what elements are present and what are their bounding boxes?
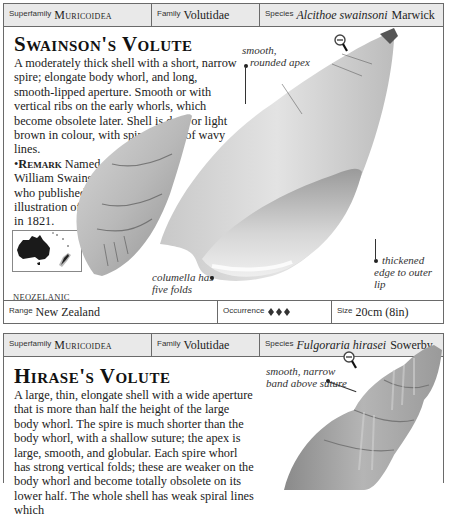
annotation-apex: smooth, rounded apex [242,44,310,68]
annotation-columella: columella has five folds [152,271,213,295]
leader-dot [210,276,214,280]
annotation-lip: thickened edge to outer lip [374,254,443,290]
occurrence-cell: Occurrence [218,301,332,323]
leader-line [375,239,376,259]
leader-line [245,66,246,104]
annotation-line: thickened [374,254,443,266]
leader-dot [374,259,378,263]
annotation-line: columella has [152,271,213,283]
size-value: 20cm (8in) [356,305,409,320]
range-cell: Range New Zealand [4,301,218,323]
annotation-line: edge to outer lip [374,266,443,290]
superfamily-value: Muricoidea [54,338,112,353]
range-label: Range [9,306,33,315]
annotation-line: five folds [152,283,213,295]
annotation-suture: smooth, narrow band above suture [266,365,347,389]
range-value: New Zealand [36,305,100,320]
shell-entry-hirases-volute: Superfamily Muricoidea Family Volutidae … [3,333,444,483]
entry-description: A large, thin, elongate shell with a wid… [14,388,254,518]
superfamily-cell: Superfamily Muricoidea [4,334,152,356]
occurrence-shell-icons [267,307,291,317]
entry-footer: Range New Zealand Occurrence Size 20cm (… [4,300,443,323]
annotation-line: rounded apex [242,56,310,68]
entry-title: Hirase's Volute [14,364,170,389]
magnifier-zoom-out-icon[interactable] [334,34,350,54]
annotation-line: smooth, [242,44,310,56]
size-cell: Size 20cm (8in) [332,301,443,323]
shell-entry-swainsons-volute: Superfamily Muricoidea Family Volutidae … [3,3,444,324]
size-label: Size [337,306,353,315]
occurrence-label: Occurrence [223,306,264,315]
family-value: Volutidae [184,338,230,353]
annotation-line: smooth, narrow [266,365,347,377]
family-label: Family [157,339,181,348]
superfamily-label: Superfamily [9,339,51,348]
